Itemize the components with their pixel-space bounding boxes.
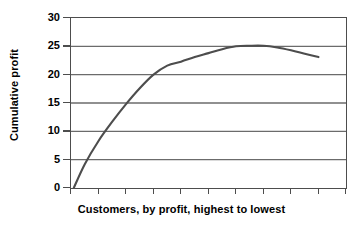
x-axis-tick-mark — [98, 188, 99, 194]
y-axis-tick-labels: 051015202530 — [28, 10, 64, 194]
y-axis-tick-mark — [63, 187, 70, 188]
x-axis-tick-mark — [180, 188, 181, 194]
x-axis-tick-mark — [208, 188, 209, 194]
x-axis-tick-mark — [70, 188, 71, 194]
y-axis-tick-label: 5 — [28, 153, 60, 164]
plot-area — [70, 17, 347, 189]
y-axis-tick-label: 30 — [28, 12, 60, 23]
x-axis-tick-marks — [70, 188, 347, 196]
y-axis-tick-label: 0 — [28, 182, 60, 193]
x-axis-tick-mark — [235, 188, 236, 194]
series-line-cumulative-profit — [71, 18, 346, 188]
x-axis-tick-mark — [345, 188, 346, 194]
y-axis-tick-mark — [63, 45, 70, 46]
x-axis-tick-mark — [125, 188, 126, 194]
y-axis-tick-mark — [63, 74, 70, 75]
x-axis-tick-mark — [290, 188, 291, 194]
y-axis-tick-mark — [63, 159, 70, 160]
cumulative-profit-chart: Cumulative profit 051015202530 Customers… — [0, 0, 363, 234]
x-axis-tick-mark — [318, 188, 319, 194]
y-axis-tick-label: 15 — [28, 97, 60, 108]
y-axis-tick-mark — [63, 130, 70, 131]
y-axis-title-label: Cumulative profit — [8, 49, 20, 141]
x-axis-title: Customers, by profit, highest to lowest — [0, 203, 363, 215]
y-axis-tick-label: 10 — [28, 125, 60, 136]
y-axis-tick-label: 25 — [28, 40, 60, 51]
x-axis-tick-mark — [153, 188, 154, 194]
x-axis-tick-mark — [263, 188, 264, 194]
y-axis-title: Cumulative profit — [0, 0, 28, 190]
y-axis-tick-mark — [63, 17, 70, 18]
series-path — [74, 46, 319, 188]
y-axis-tick-mark — [63, 102, 70, 103]
y-axis-tick-label: 20 — [28, 68, 60, 79]
